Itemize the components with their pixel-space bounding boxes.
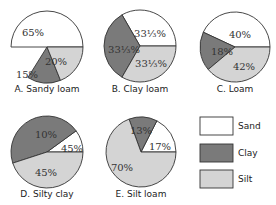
slice-label-sand: 10% <box>35 129 57 140</box>
legend-swatch-sand <box>200 117 233 135</box>
slice-label-clay: 33⅓% <box>108 44 140 55</box>
pie-caption: B. Clay loam <box>112 84 169 94</box>
pie-caption: E. Silt loam <box>116 189 167 199</box>
pie-caption: D. Silty clay <box>20 189 74 199</box>
slice-label-silt: 45% <box>35 167 57 178</box>
pie-chart-4: 10%45%45%D. Silty clay <box>11 116 83 199</box>
pie-chart-1: 65%15%20%A. Sandy loam <box>11 11 83 94</box>
slice-label-clay: 13% <box>130 125 152 136</box>
legend-label-silt: Silt <box>238 174 253 184</box>
slice-label-silt: 33⅓% <box>135 58 167 69</box>
legend-swatch-silt <box>200 170 233 188</box>
slice-label-clay: 45% <box>61 143 83 154</box>
slice-label-silt: 20% <box>45 56 67 67</box>
slice-label-silt: 42% <box>233 61 255 72</box>
slice-label-sand: 40% <box>229 29 251 40</box>
slice-label-sand: 65% <box>22 27 44 38</box>
pie-caption: A. Sandy loam <box>15 84 80 94</box>
pie-chart-2: 33⅓%33⅓%33⅓%B. Clay loam <box>104 10 176 94</box>
soil-texture-pie-charts: 65%15%20%A. Sandy loam33⅓%33⅓%33⅓%B. Cla… <box>0 0 276 205</box>
slice-label-sand: 17% <box>149 141 171 152</box>
legend-swatch-clay <box>200 144 233 162</box>
slice-label-sand: 33⅓% <box>134 28 166 39</box>
legend-label-sand: Sand <box>238 121 261 131</box>
slice-label-silt: 70% <box>111 162 133 173</box>
pie-chart-3: 40%18%42%C. Loam <box>200 12 270 94</box>
slice-label-clay: 15% <box>16 69 38 80</box>
slice-label-clay: 18% <box>211 46 233 57</box>
pie-caption: C. Loam <box>217 84 254 94</box>
legend: SandClaySilt <box>200 117 261 188</box>
pie-chart-5: 17%13%70%E. Silt loam <box>106 117 176 199</box>
legend-label-clay: Clay <box>238 148 258 158</box>
